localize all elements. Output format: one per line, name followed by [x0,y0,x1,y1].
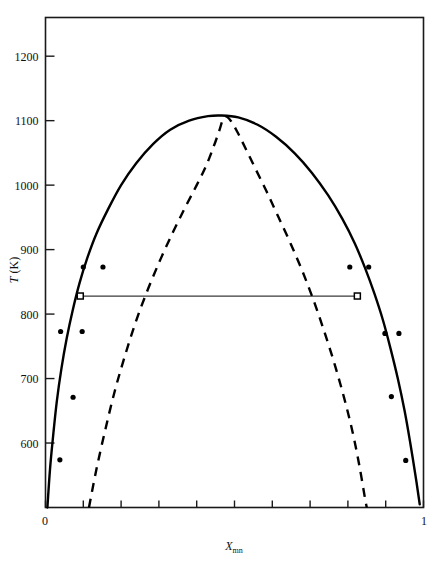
y-tick-label: 900 [21,243,39,257]
tie-line-endpoint [77,293,83,299]
data-point [382,331,387,336]
x-axis-title-subscript: mn [233,546,243,555]
x-axis-min-label: 0 [42,514,48,528]
phase-diagram-plot: 600700800900100011001200 0 1 Xmn T (K) [0,0,446,563]
data-point [403,458,408,463]
x-axis-max-label: 1 [421,514,427,528]
figure-container: 600700800900100011001200 0 1 Xmn T (K) [0,0,446,563]
tie-line-endpoint [354,293,360,299]
data-point [58,329,63,334]
data-point [70,395,75,400]
y-tick-label: 600 [21,437,39,451]
y-tick-label: 1100 [15,114,39,128]
y-tick-label: 1200 [15,50,39,64]
data-point [57,457,62,462]
y-tick-label: 700 [21,372,39,386]
data-point [389,394,394,399]
y-tick-label: 800 [21,308,39,322]
y-axis-title: T (K) [7,257,21,283]
data-point [347,264,352,269]
data-point [80,329,85,334]
plot-background [0,0,446,563]
data-point [396,331,401,336]
data-point [81,264,86,269]
data-point [100,264,105,269]
y-axis-title-unit: (K) [7,257,21,277]
data-point [366,264,371,269]
y-tick-label: 1000 [15,179,39,193]
